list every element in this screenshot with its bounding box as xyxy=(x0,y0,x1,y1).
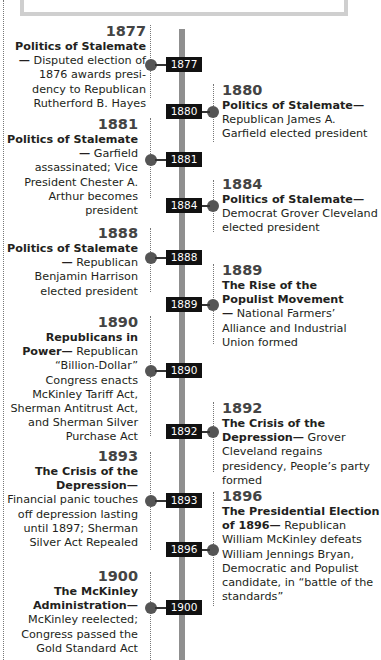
year-label-1889: 1889 xyxy=(166,297,202,312)
event-1896: 1896 The Presidential Election of 1896— … xyxy=(222,488,381,604)
year-label-1890: 1890 xyxy=(166,363,202,378)
event-1881: 1881 Politics of Stalemate— Garfield ass… xyxy=(6,116,138,218)
year-label-1900: 1900 xyxy=(166,600,202,615)
year-label-1892: 1892 xyxy=(166,424,202,439)
event-year: 1892 xyxy=(222,400,381,417)
event-body: McKinley reelected; Congress passed the … xyxy=(21,613,138,654)
event-1892: 1892 The Crisis of the Depression— Grove… xyxy=(222,400,381,488)
event-year: 1884 xyxy=(222,176,380,193)
header-box xyxy=(20,0,348,16)
event-body: Disputed election of 1876 awards presi-d… xyxy=(32,54,146,110)
event-1880: 1880 Politics of Stalemate— Republican J… xyxy=(222,82,377,142)
event-body: Republican “Billion-Dollar” Congress ena… xyxy=(10,345,138,443)
year-label-1893: 1893 xyxy=(166,493,202,508)
event-year: 1889 xyxy=(222,262,352,279)
event-1890: 1890 Republicans in Power— Republican “B… xyxy=(6,314,138,445)
event-1877: 1877 Politics of Stalemate— Disputed ele… xyxy=(6,23,146,111)
event-body: National Farmers’ Alliance and Industria… xyxy=(222,307,347,348)
event-year: 1893 xyxy=(6,448,138,465)
event-heading: The Crisis of the Depression— xyxy=(35,465,138,492)
event-1900: 1900 The McKinley Administration— McKinl… xyxy=(6,568,138,656)
event-body: Democrat Grover Cleveland elected presid… xyxy=(222,207,378,234)
year-label-1881: 1881 xyxy=(166,152,202,167)
event-year: 1880 xyxy=(222,82,377,99)
event-1884: 1884 Politics of Stalemate— Democrat Gro… xyxy=(222,176,380,236)
timeline-axis xyxy=(179,29,185,660)
year-label-1877: 1877 xyxy=(166,57,202,72)
event-1888: 1888 Politics of Stalemate— Republican B… xyxy=(6,225,138,299)
year-label-1880: 1880 xyxy=(166,104,202,119)
event-year: 1900 xyxy=(6,568,138,585)
event-1889: 1889 The Rise of the Populist Movement— … xyxy=(222,262,352,350)
year-label-1888: 1888 xyxy=(166,250,202,265)
event-year: 1888 xyxy=(6,225,138,242)
connector-dots xyxy=(150,572,151,660)
year-label-1896: 1896 xyxy=(166,542,202,557)
event-year: 1881 xyxy=(6,116,138,133)
event-heading: Politics of Stalemate— xyxy=(222,193,364,206)
event-year: 1896 xyxy=(222,488,381,505)
event-year: 1890 xyxy=(6,314,138,331)
event-heading: The McKinley Administration— xyxy=(33,585,138,612)
event-body: Financial panic touches off depression l… xyxy=(7,493,138,549)
event-heading: Politics of Stalemate— xyxy=(222,99,364,112)
year-label-1884: 1884 xyxy=(166,198,202,213)
event-body: Republican James A. Garfield elected pre… xyxy=(222,113,368,140)
left-dotted-border xyxy=(3,0,4,660)
event-1893: 1893 The Crisis of the Depression— Finan… xyxy=(6,448,138,550)
event-year: 1877 xyxy=(6,23,146,40)
event-body: Republican Benjamin Harrison elected pre… xyxy=(35,256,138,297)
